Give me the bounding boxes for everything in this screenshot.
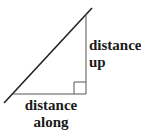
distance-along-line1: distance xyxy=(16,97,86,114)
hypotenuse-line xyxy=(4,8,92,103)
distance-up-line2: up xyxy=(89,54,141,71)
distance-along-label: distance along xyxy=(16,97,86,131)
distance-along-line2: along xyxy=(16,114,86,131)
right-angle-marker xyxy=(74,82,86,94)
distance-up-label: distance up xyxy=(89,37,141,71)
distance-up-line1: distance xyxy=(89,37,141,54)
